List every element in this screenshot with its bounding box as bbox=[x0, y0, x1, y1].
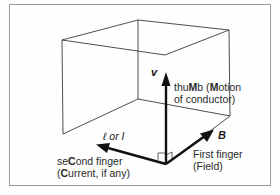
diagram-canvas: v B ℓ or I thuMb (Motion of conductor) F… bbox=[0, 0, 280, 195]
motion-label: thuMb (Motion of conductor) bbox=[174, 81, 241, 105]
motion-symbol: v bbox=[151, 66, 157, 78]
field-label-line2: (Field) bbox=[193, 160, 243, 172]
current-label-bold: C bbox=[61, 167, 69, 179]
current-label-bold: C bbox=[68, 155, 76, 167]
motion-label-part: thu bbox=[174, 81, 189, 93]
current-label: seCond finger (Current, if any) bbox=[57, 155, 130, 179]
motion-label-part: b ( bbox=[197, 81, 209, 93]
field-symbol: B bbox=[218, 129, 226, 141]
motion-label-line1: thuMb (Motion bbox=[174, 81, 241, 93]
motion-label-part: otion bbox=[218, 81, 241, 93]
current-label-part: se bbox=[57, 155, 68, 167]
current-symbol: ℓ or I bbox=[103, 130, 124, 142]
current-symbol-text: ℓ or I bbox=[103, 130, 124, 142]
current-label-part: ond finger bbox=[76, 155, 123, 167]
field-label-line1: First finger bbox=[193, 148, 243, 160]
current-label-part: urrent, if any) bbox=[68, 167, 130, 179]
current-label-line2: (Current, if any) bbox=[57, 167, 130, 179]
motion-label-line2: of conductor) bbox=[174, 93, 241, 105]
current-label-line1: seCond finger bbox=[57, 155, 130, 167]
motion-arrow bbox=[162, 72, 171, 164]
field-label: First finger (Field) bbox=[193, 148, 243, 172]
